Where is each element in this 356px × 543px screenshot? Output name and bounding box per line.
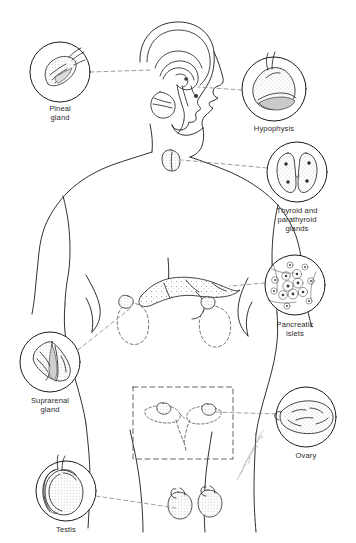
leader-testis xyxy=(96,496,176,508)
thyroid-callout xyxy=(267,142,327,202)
thyroid-in-situ xyxy=(162,150,180,171)
leader-pancreatic-islets xyxy=(230,283,265,286)
testes-in-situ xyxy=(168,486,222,519)
label-thyroid-and-parathyroid-glands: Thyroid and parathyroid glands xyxy=(257,206,337,234)
label-testis: Testis xyxy=(31,525,101,534)
suprarenal-gland-callout xyxy=(20,332,80,392)
brain-sagittal-section xyxy=(147,30,210,133)
label-suprarenal-gland: Suprarenal gland xyxy=(8,396,92,414)
figure-artwork xyxy=(0,0,356,543)
testis-callout xyxy=(36,455,96,521)
leader-thyroid xyxy=(182,160,267,168)
uterus-and-ovaries-dashed-box xyxy=(133,387,233,459)
pineal-gland-callout xyxy=(30,42,90,102)
hypophysis-callout xyxy=(242,52,306,121)
artist-signature xyxy=(237,430,264,480)
pancreatic-islets-callout xyxy=(265,255,325,315)
pancreas-and-kidneys-in-situ xyxy=(117,277,240,347)
leader-pineal-gland xyxy=(90,70,152,72)
label-ovary: Ovary xyxy=(271,451,341,460)
label-pineal-gland: Pineal gland xyxy=(25,104,95,122)
label-hypophysis: Hypophysis xyxy=(234,124,314,133)
ovary-callout xyxy=(275,387,336,447)
leader-suprarenal-gland xyxy=(78,307,132,350)
endocrine-system-figure: Pineal gland Hypophysis Thyroid and para… xyxy=(0,0,356,543)
label-pancreatic-islets: Pancreatic islets xyxy=(255,320,335,338)
leader-ovary xyxy=(215,412,276,414)
